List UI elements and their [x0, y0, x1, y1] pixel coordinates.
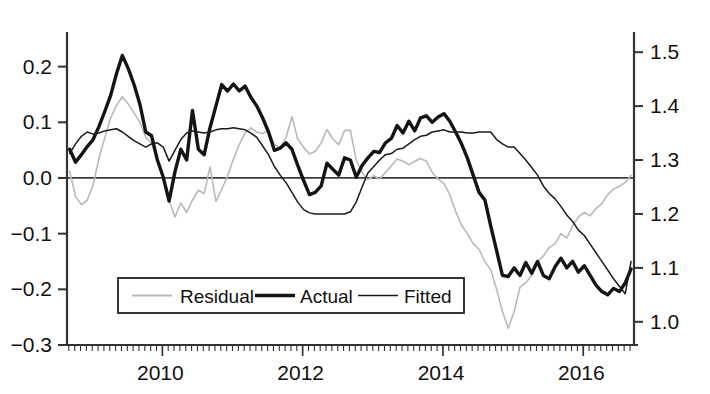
x-axis-tick-label: 2012: [277, 361, 324, 384]
chart-background: [0, 0, 710, 394]
left-axis-tick-label: 0.2: [23, 55, 52, 78]
left-axis-tick-label: −0.3: [11, 333, 52, 356]
left-axis-tick-label: 0.0: [23, 166, 52, 189]
chart-canvas: 0.20.10.0−0.1−0.2−0.31.51.41.31.21.11.02…: [0, 0, 710, 394]
left-axis-tick-label: −0.2: [11, 277, 52, 300]
right-axis-tick-label: 1.5: [650, 40, 679, 63]
right-axis-tick-label: 1.4: [650, 94, 680, 117]
chart-legend: ResidualActualFitted: [118, 278, 464, 313]
left-axis-tick-label: −0.1: [11, 222, 52, 245]
x-axis-tick-label: 2014: [418, 361, 465, 384]
legend-label-fitted: Fitted: [404, 286, 452, 307]
x-axis-tick-label: 2016: [558, 361, 605, 384]
right-axis-tick-label: 1.2: [650, 202, 679, 225]
right-axis-tick-label: 1.1: [650, 256, 679, 279]
legend-label-residual: Residual: [180, 286, 254, 307]
chart-figure: 0.20.10.0−0.1−0.2−0.31.51.41.31.21.11.02…: [0, 0, 710, 394]
right-axis-tick-label: 1.0: [650, 310, 679, 333]
right-axis-tick-label: 1.3: [650, 148, 679, 171]
left-axis-tick-label: 0.1: [23, 110, 52, 133]
x-axis-tick-label: 2010: [137, 361, 184, 384]
legend-label-actual: Actual: [300, 286, 353, 307]
